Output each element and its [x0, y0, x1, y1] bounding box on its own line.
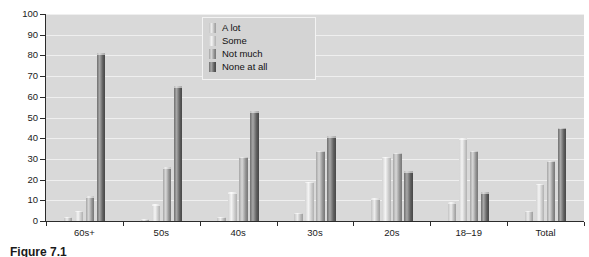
x-axis-tick-label: 40s [230, 227, 245, 238]
legend-swatch-none-at-all [209, 62, 216, 72]
bar-30s-none-at-all [327, 136, 336, 221]
legend-item-a-lot: A lot [209, 22, 309, 34]
x-axis-tick [430, 222, 431, 226]
bar-30s-some [305, 182, 314, 221]
figure-caption: Figure 7.1 [10, 245, 67, 257]
legend-swatch-a-lot [209, 23, 216, 33]
legend-item-not-much: Not much [209, 48, 309, 60]
y-axis-tick-label: 90 [0, 30, 38, 40]
y-axis-tick-label: 50 [0, 113, 38, 123]
x-axis-tick-label: 30s [307, 227, 322, 238]
x-axis-tick-label: 60s+ [74, 227, 95, 238]
y-axis-tick-label: 100 [0, 9, 38, 19]
bar-20s-a-lot [371, 198, 380, 221]
y-axis-tick [40, 138, 45, 139]
x-axis-tick [584, 222, 585, 226]
bar-20s-none-at-all [404, 171, 413, 221]
x-axis-tick [46, 222, 47, 226]
bar-1819-none-at-all [481, 192, 490, 221]
y-axis-tick-label: 0 [0, 216, 38, 226]
bar-30s-a-lot [294, 213, 303, 221]
y-axis-tick-label: 80 [0, 51, 38, 61]
bar-30s-not-much [316, 151, 325, 221]
x-axis-tick-label: 18–19 [455, 227, 481, 238]
y-axis-tick-label: 70 [0, 71, 38, 81]
legend-swatch-some [209, 36, 216, 46]
y-axis-tick-label: 20 [0, 175, 38, 185]
y-axis-tick [40, 200, 45, 201]
y-axis-tick-label: 40 [0, 133, 38, 143]
legend-label-none-at-all: None at all [222, 62, 267, 72]
bar-Total-some [536, 184, 545, 221]
x-axis-tick [277, 222, 278, 226]
bar-Total-none-at-all [558, 128, 567, 221]
y-axis-tick [40, 159, 45, 160]
bar-Total-a-lot [525, 211, 534, 221]
figure-root: 0102030405060708090100 Percentage 60s+50… [0, 0, 589, 257]
bar-40s-none-at-all [250, 111, 259, 221]
x-axis-tick-label: Total [536, 227, 556, 238]
bar-Total-not-much [547, 161, 556, 221]
x-axis-tick [200, 222, 201, 226]
bar-40s-some [228, 192, 237, 221]
bar-50s-not-much [163, 167, 172, 221]
legend-label-not-much: Not much [222, 49, 263, 59]
x-axis-tick [507, 222, 508, 226]
y-axis-line [45, 14, 46, 221]
legend-label-a-lot: A lot [222, 23, 241, 33]
bar-50s-some [152, 204, 161, 221]
legend-item-some: Some [209, 35, 309, 47]
bar-60s-none-at-all [97, 53, 106, 221]
y-axis-tick [40, 14, 45, 15]
y-axis-tick-label: 60 [0, 92, 38, 102]
x-axis-tick [123, 222, 124, 226]
y-axis-tick-label: 30 [0, 154, 38, 164]
bar-40s-not-much [239, 157, 248, 221]
x-axis-tick [353, 222, 354, 226]
bar-60s-some [75, 211, 84, 221]
y-axis-tick-label: 10 [0, 196, 38, 206]
x-axis-line [45, 221, 584, 222]
y-axis-tick [40, 76, 45, 77]
y-axis-tick [40, 180, 45, 181]
bar-1819-some [459, 138, 468, 221]
x-axis-tick-label: 20s [384, 227, 399, 238]
legend-swatch-not-much [209, 49, 216, 59]
bar-60s-not-much [86, 196, 95, 221]
y-axis-tick [40, 97, 45, 98]
y-axis-tick [40, 118, 45, 119]
y-axis-tick [40, 55, 45, 56]
chart-legend: A lot Some Not much None at all [202, 17, 316, 80]
x-axis-tick-label: 50s [154, 227, 169, 238]
bar-20s-not-much [393, 153, 402, 221]
bar-1819-a-lot [448, 202, 457, 221]
legend-label-some: Some [222, 36, 247, 46]
bar-50s-none-at-all [174, 86, 183, 221]
bar-20s-some [382, 157, 391, 221]
bar-1819-not-much [470, 151, 479, 221]
y-axis-tick [40, 35, 45, 36]
legend-item-none-at-all: None at all [209, 61, 309, 73]
